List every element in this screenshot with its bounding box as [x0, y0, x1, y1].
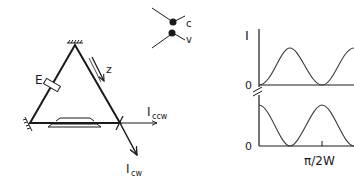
- label-i-ccw-sub: ccw: [152, 112, 168, 121]
- label-I-axis: I: [245, 28, 249, 43]
- label-i-cw: I: [126, 162, 130, 176]
- valence-band-curve: [152, 33, 185, 48]
- label-i-cw-sub: cw: [131, 169, 142, 178]
- cw-output-arrow: [120, 123, 137, 155]
- label-E: E: [35, 73, 43, 87]
- label-c: c: [186, 18, 192, 29]
- label-z: z: [106, 63, 112, 76]
- label-x-tick: π/2W: [304, 154, 335, 168]
- label-v: v: [186, 34, 192, 45]
- lower-curve: [259, 105, 354, 146]
- label-zero-bottom: 0: [245, 140, 252, 153]
- label-zero-top: 0: [245, 79, 252, 92]
- intensity-chart: I 0 0 π/2W: [245, 28, 354, 168]
- mirror-apex-icon: [67, 40, 83, 43]
- conduction-band-curve: [152, 8, 185, 22]
- polarizer-element-icon: [44, 78, 61, 91]
- ring-laser-diagram: E z I ccw I cw: [23, 40, 168, 178]
- figure-canvas: E z I ccw I cw c v I 0 0: [0, 0, 354, 182]
- conduction-dot-icon: [170, 19, 177, 26]
- upper-curve: [259, 48, 354, 85]
- level-crossing-diagram: c v: [152, 8, 192, 48]
- label-i-ccw: I: [147, 105, 151, 119]
- axis-break-icon: [253, 87, 262, 96]
- valence-dot-icon: [169, 30, 176, 37]
